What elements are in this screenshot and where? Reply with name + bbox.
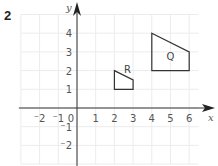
x-tick-label: 3 [130,113,136,124]
y-tick-label: 2 [66,66,72,77]
y-tick-label: ⁻2 [60,140,72,151]
coordinate-plane: xy ⁻2⁻112345604321⁻1⁻2 QR [0,0,218,166]
shape-label-r: R [124,64,131,75]
y-axis-label: y [65,2,72,13]
x-tick-label: 6 [186,113,192,124]
y-tick-label: 1 [66,84,72,95]
y-tick-label: 3 [66,47,72,58]
x-tick-label: ⁻2 [34,113,46,124]
axes: xy [19,2,215,166]
grid-lines [21,15,199,165]
x-tick-label: 5 [167,113,173,124]
x-axis-label: x [208,112,214,123]
x-tick-label: 1 [93,113,99,124]
shape-label-q: Q [167,51,175,62]
y-tick-label: 4 [66,28,72,39]
y-tick-label: ⁻1 [60,122,72,133]
x-tick-label: 2 [111,113,117,124]
x-tick-label: 4 [149,113,155,124]
